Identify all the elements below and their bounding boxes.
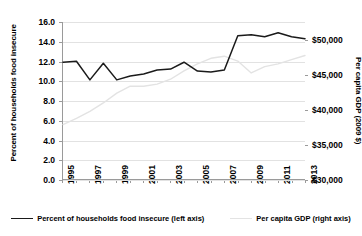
y-axis-left-tick-label: 16.0 bbox=[38, 17, 55, 27]
chart-container: Percent of households food insecure Per … bbox=[0, 0, 362, 236]
plot-area bbox=[62, 22, 305, 180]
chart-legend: Percent of households food insecure (lef… bbox=[0, 214, 362, 223]
y-axis-right-tick-mark bbox=[305, 75, 308, 76]
y-axis-left-tick-label: 2.0 bbox=[43, 155, 55, 165]
y-axis-left-tick-label: 8.0 bbox=[43, 96, 55, 106]
y-axis-left-tick-label: 12.0 bbox=[38, 57, 55, 67]
y-axis-right-tick-mark bbox=[305, 40, 308, 41]
legend-label-food-insecurity: Percent of households food insecure (lef… bbox=[37, 214, 204, 223]
y-axis-left-tick-label: 10.0 bbox=[38, 76, 55, 86]
y-axis-left-tick-label: 14.0 bbox=[38, 37, 55, 47]
y-axis-left-tick-label: 6.0 bbox=[43, 116, 55, 126]
y-axis-right-tick-mark bbox=[305, 110, 308, 111]
legend-label-per-capita-gdp: Per capita GDP (right axis) bbox=[256, 214, 350, 223]
y-axis-left-tick-label: 0.0 bbox=[43, 175, 55, 185]
y-axis-right-tick-label: $35,000 bbox=[312, 140, 343, 150]
legend-item-per-capita-gdp: Per capita GDP (right axis) bbox=[230, 214, 350, 223]
y-axis-left-tick-label: 4.0 bbox=[43, 136, 55, 146]
legend-swatch-food-insecurity bbox=[11, 218, 33, 219]
y-axis-left-title: Percent of households food insecure bbox=[9, 23, 19, 163]
legend-item-food-insecurity: Percent of households food insecure (lef… bbox=[11, 214, 204, 223]
y-axis-right-tick-label: $50,000 bbox=[312, 35, 343, 45]
gridline bbox=[63, 180, 305, 181]
line-food-insecurity bbox=[63, 33, 305, 80]
legend-swatch-per-capita-gdp bbox=[230, 218, 252, 219]
y-axis-right-title: Per capita GDP (2009 $) bbox=[353, 31, 362, 171]
y-axis-right-tick-label: $40,000 bbox=[312, 105, 343, 115]
y-axis-right-tick-label: $45,000 bbox=[312, 70, 343, 80]
x-axis-tick-label: 2013 bbox=[309, 165, 319, 184]
x-axis-tick-mark bbox=[305, 180, 306, 183]
y-axis-right-tick-mark bbox=[305, 145, 308, 146]
series-lines bbox=[63, 22, 305, 179]
line-per-capita-gdp bbox=[63, 55, 305, 124]
